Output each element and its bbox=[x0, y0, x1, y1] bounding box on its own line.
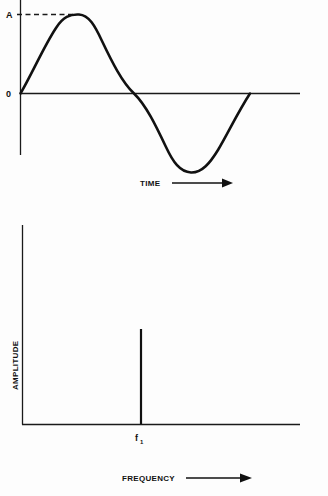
time-chart-zero-tick-label: 0 bbox=[6, 89, 11, 99]
frequency-axis-label: FREQUENCY bbox=[122, 474, 175, 483]
signal-and-spectrum-figure: A 0 TIME f 1 AMPLITUDE FREQUENCY bbox=[0, 0, 328, 496]
f1-tick-label-base: f bbox=[135, 433, 139, 443]
time-axis-arrow-head bbox=[222, 179, 233, 188]
frequency-axis-arrow-head bbox=[240, 474, 252, 483]
time-axis-label: TIME bbox=[140, 179, 161, 188]
frequency-domain-chart: f 1 AMPLITUDE FREQUENCY bbox=[11, 225, 300, 483]
figure-container: A 0 TIME f 1 AMPLITUDE FREQUENCY bbox=[0, 0, 328, 496]
time-domain-chart: A 0 TIME bbox=[6, 0, 300, 188]
amplitude-axis-label: AMPLITUDE bbox=[11, 340, 20, 390]
time-chart-amplitude-tick-label: A bbox=[6, 10, 13, 20]
f1-tick-label-subscript: 1 bbox=[140, 439, 144, 445]
